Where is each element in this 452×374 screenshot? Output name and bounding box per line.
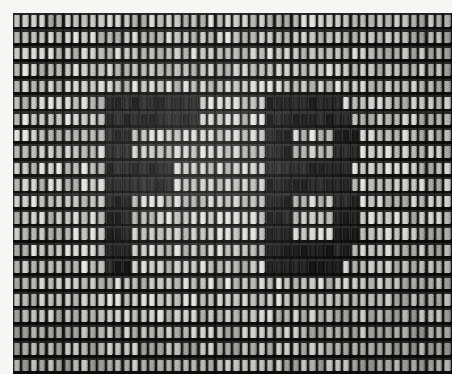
pixel-cell [55, 308, 63, 324]
pixel-cell [38, 62, 46, 78]
bright-pixel-pad [132, 310, 138, 321]
pixel-cell [216, 341, 224, 357]
bright-pixel-pad [250, 212, 256, 223]
bright-pixel-pad [107, 48, 113, 59]
pixel-cell [13, 111, 21, 127]
bright-pixel-pad [276, 81, 282, 92]
bright-pixel-pad [174, 48, 180, 59]
dark-pixel-pad [267, 245, 273, 256]
pixel-cell [199, 13, 207, 29]
pixel-cell [97, 79, 105, 95]
bright-pixel-pad [318, 343, 324, 354]
pixel-cell [114, 128, 122, 144]
pixel-cell [393, 210, 401, 226]
pixel-cell [359, 161, 367, 177]
bright-pixel-pad [48, 212, 54, 223]
bright-pixel-pad [301, 360, 307, 371]
bright-pixel-pad [233, 130, 239, 141]
pixel-cell [131, 13, 139, 29]
pixel-cell [165, 128, 173, 144]
bright-pixel-pad [419, 81, 425, 92]
pixel-cell [140, 161, 148, 177]
bright-pixel-pad [166, 343, 172, 354]
pixel-cell [38, 358, 46, 374]
pixel-cell [81, 243, 89, 259]
dark-pixel-pad [284, 146, 290, 157]
bright-pixel-pad [377, 48, 383, 59]
dark-pixel-pad [343, 146, 349, 157]
pixel-cell [38, 292, 46, 308]
bright-pixel-pad [157, 15, 163, 26]
bright-pixel-pad [377, 163, 383, 174]
bright-pixel-pad [233, 294, 239, 305]
pixel-cell [199, 259, 207, 275]
pixel-cell [97, 226, 105, 242]
bright-pixel-pad [48, 97, 54, 108]
bright-pixel-pad [65, 261, 71, 272]
pixel-cell [334, 276, 342, 292]
pixel-cell [266, 13, 274, 29]
pixel-cell [393, 13, 401, 29]
bright-pixel-pad [81, 261, 87, 272]
pixel-cell [418, 177, 426, 193]
pixel-cell [266, 308, 274, 324]
pixel-cell [140, 13, 148, 29]
bright-pixel-pad [428, 245, 434, 256]
bright-pixel-pad [233, 97, 239, 108]
pixel-cell [224, 111, 232, 127]
pixel-cell [384, 358, 392, 374]
pixel-cell [300, 193, 308, 209]
pixel-cell [427, 79, 435, 95]
dark-pixel-pad [157, 114, 163, 125]
bright-pixel-pad [411, 48, 417, 59]
pixel-cell [106, 46, 114, 62]
pixel-cell [72, 226, 80, 242]
pixel-cell [173, 128, 181, 144]
pixel-cell [418, 95, 426, 111]
bright-pixel-pad [107, 278, 113, 289]
pixel-cell [140, 210, 148, 226]
pixel-cell [47, 62, 55, 78]
pixel-cell [30, 62, 38, 78]
bright-pixel-pad [242, 245, 248, 256]
pixel-cell [384, 128, 392, 144]
pixel-cell [393, 308, 401, 324]
pixel-cell [89, 276, 97, 292]
bright-pixel-pad [73, 130, 79, 141]
dark-pixel-pad [293, 97, 299, 108]
pixel-cell [182, 193, 190, 209]
pixel-cell [401, 358, 409, 374]
pixel-cell [207, 226, 215, 242]
bright-pixel-pad [124, 294, 130, 305]
pixel-cell [199, 111, 207, 127]
bright-pixel-pad [81, 114, 87, 125]
pixel-cell [427, 193, 435, 209]
pixel-cell [55, 325, 63, 341]
bright-pixel-pad [217, 228, 223, 239]
bright-pixel-pad [81, 343, 87, 354]
pixel-cell [190, 210, 198, 226]
pixel-cell [131, 79, 139, 95]
bright-pixel-pad [335, 15, 341, 26]
pixel-cell [207, 210, 215, 226]
pixel-cell [376, 276, 384, 292]
pixel-cell [283, 358, 291, 374]
pixel-cell [410, 13, 418, 29]
bright-pixel-pad [174, 32, 180, 43]
pixel-cell [224, 259, 232, 275]
pixel-cell [325, 325, 333, 341]
pixel-cell [207, 46, 215, 62]
bright-pixel-pad [98, 48, 104, 59]
pixel-cell [351, 144, 359, 160]
bright-pixel-pad [98, 146, 104, 157]
bright-pixel-pad [48, 64, 54, 75]
bright-pixel-pad [293, 146, 299, 157]
bright-pixel-pad [48, 114, 54, 125]
pixel-cell [317, 276, 325, 292]
pixel-cell [173, 259, 181, 275]
pixel-cell [275, 144, 283, 160]
bright-pixel-pad [65, 294, 71, 305]
bright-pixel-pad [301, 48, 307, 59]
pixel-cell [292, 193, 300, 209]
bright-pixel-pad [368, 294, 374, 305]
